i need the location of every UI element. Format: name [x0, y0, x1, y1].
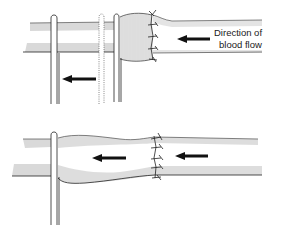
dotted-post — [99, 14, 104, 104]
clamp-post-bottom — [51, 132, 59, 225]
clamp-post-2 — [114, 14, 121, 102]
flow-arrow-below-icon — [62, 75, 96, 83]
flow-arrow-left-icon — [92, 154, 126, 162]
direction-label-line2: blood flow — [219, 39, 262, 50]
flow-arrow-vessel-icon — [177, 35, 210, 43]
bottom-panel — [12, 132, 262, 225]
vessel-upper-wall-bottom — [23, 135, 258, 148]
top-panel — [23, 10, 262, 104]
diagram-canvas: Direction of blood flow — [0, 0, 283, 235]
vessel-lower-wall-bottom — [12, 164, 262, 183]
direction-label-line1: Direction of — [214, 27, 262, 38]
flow-arrow-right-icon — [175, 152, 208, 160]
